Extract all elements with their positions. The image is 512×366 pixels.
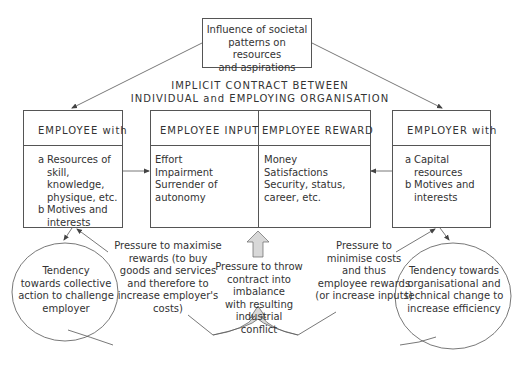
employee-box: EMPLOYEE with a Resources of skill, know… <box>23 110 123 228</box>
arrow-employee-to-left-circle <box>64 228 72 240</box>
collective-action-text: Tendency towards collective action to ch… <box>14 265 118 315</box>
pressure-minimise-costs-text: Pressure to minimise costs and thus empl… <box>310 240 418 303</box>
employee-reward-header: EMPLOYEE REWARD <box>262 125 374 136</box>
societal-patterns-box: Influence of societal patterns on resour… <box>202 18 312 68</box>
employer-header-divider <box>393 145 490 146</box>
employee-item-b: b Motives and interests <box>38 204 124 229</box>
arrow-employer-to-right-circle <box>440 228 449 240</box>
contract-box: EMPLOYEE INPUT EMPLOYEE REWARD Effort Im… <box>150 110 371 228</box>
employee-item-a: a Resources of skill, knowledge, physiqu… <box>38 154 124 204</box>
societal-patterns-text: Influence of societal patterns on resour… <box>203 24 311 74</box>
contract-title-line1: IMPLICIT CONTRACT BETWEEN <box>140 80 380 91</box>
employer-box: EMPLOYER with a Capital resources b Moti… <box>392 110 491 228</box>
employer-box-header: EMPLOYER with <box>407 125 497 136</box>
arrow-pressure-to-employee <box>77 229 108 252</box>
employer-item-a: a Capital resources <box>405 154 489 179</box>
employee-header-divider <box>24 145 122 146</box>
employee-input-list: Effort Impairment Surrender of autonomy <box>155 154 255 204</box>
employee-box-header: EMPLOYEE with <box>38 125 128 136</box>
contract-title-line2: INDIVIDUAL and EMPLOYING ORGANISATION <box>130 93 390 104</box>
contract-header-divider <box>151 145 370 146</box>
employee-reward-list: Money Satisfactions Security, status, ca… <box>264 154 368 204</box>
employer-item-b: b Motives and interests <box>405 179 489 204</box>
pressure-conflict-text: Pressure to throw contract into imbalanc… <box>200 261 318 336</box>
employer-resources-list: a Capital resources b Motives and intere… <box>405 154 489 204</box>
employee-resources-list: a Resources of skill, knowledge, physiqu… <box>38 154 124 229</box>
employee-input-header: EMPLOYEE INPUT <box>160 125 259 136</box>
up-arrow <box>247 231 269 257</box>
